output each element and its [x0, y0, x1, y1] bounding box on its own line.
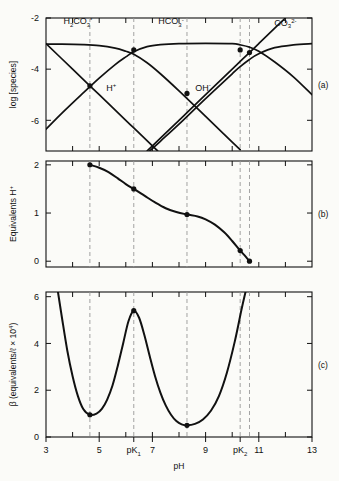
panel-label-b: (b)	[318, 209, 329, 219]
y-ticklabel: 2	[34, 160, 39, 170]
panel-c-y-axis-label: β (equivalents/ℓ × 104)	[8, 323, 18, 407]
curve-h	[46, 44, 158, 151]
panel-c-frame	[46, 292, 312, 437]
data-point-marker	[247, 259, 252, 264]
figure-container: -2-4-6(a)log [species]H2CO3*HCO3-CO32-H+…	[0, 0, 339, 481]
panel-b-y-ticks: 012	[34, 160, 312, 266]
data-point-marker	[131, 186, 136, 191]
data-point-marker	[184, 423, 189, 428]
panel-c-x-ticks	[73, 292, 286, 437]
x-axis-label: pH	[174, 461, 185, 471]
y-ticklabel: -2	[31, 13, 39, 23]
panel-b-curves	[90, 165, 250, 261]
x-ticklabel: 11	[254, 445, 263, 455]
x-ticklabel: 13	[307, 445, 317, 455]
data-point-marker	[238, 248, 243, 253]
y-ticklabel: 0	[34, 256, 39, 266]
data-point-marker	[184, 91, 189, 96]
y-ticklabel: -6	[31, 116, 39, 126]
curve-panel-b	[90, 165, 250, 261]
panel-label-a: (a)	[318, 80, 329, 90]
panel-a-x-ticks	[73, 18, 286, 151]
curve-co32	[150, 44, 312, 151]
ion-label-oh-minus: OH-	[195, 82, 211, 93]
panel-b-dashed-lines	[90, 161, 250, 267]
x-ticklabel: 5	[97, 445, 102, 455]
panel-a-ion-labels: H+OH-	[106, 82, 211, 93]
panel-c-markers	[87, 308, 189, 428]
curve-panel-c	[58, 292, 246, 425]
panel-a-y-axis-label: log [species]	[8, 61, 18, 108]
data-point-marker	[87, 412, 92, 417]
data-point-marker	[238, 47, 243, 52]
data-point-marker	[87, 83, 92, 88]
y-ticklabel: 1	[34, 208, 39, 218]
panel-b-x-ticks	[73, 161, 286, 267]
panel-b-markers	[87, 162, 252, 264]
y-ticklabel: 6	[34, 292, 39, 302]
y-ticklabel: 2	[34, 385, 39, 395]
curve-hco3	[46, 43, 312, 129]
x-ticklabel: pK1	[127, 445, 142, 457]
x-axis: 35pK179pK21113pH	[43, 437, 317, 471]
data-point-marker	[184, 212, 189, 217]
y-ticklabel: 0	[34, 432, 39, 442]
species-label-co3: CO32-	[274, 18, 296, 30]
panel-a: -2-4-6(a)log [species]H2CO3*HCO3-CO32-H+…	[8, 13, 329, 151]
panel-c-dashed-lines	[90, 292, 250, 437]
y-ticklabel: 4	[34, 339, 39, 349]
data-point-marker	[131, 308, 136, 313]
x-ticklabel: 9	[203, 445, 208, 455]
curve-h2co3	[46, 44, 240, 150]
panel-b-frame	[46, 161, 312, 267]
panel-c-y-ticks: 0246	[34, 292, 312, 442]
data-point-marker	[247, 50, 252, 55]
panel-b-y-axis-label: Equivalents H+	[8, 186, 18, 242]
y-ticklabel: -4	[31, 64, 39, 74]
panel-a-curves	[46, 18, 312, 151]
data-point-marker	[131, 47, 136, 52]
panel-b: 012(b)Equivalents H+	[8, 160, 329, 267]
data-point-marker	[87, 162, 92, 167]
panel-c: 0246(c)β (equivalents/ℓ × 104)	[8, 292, 328, 442]
x-ticklabel: 3	[43, 445, 48, 455]
panel-label-c: (c)	[318, 360, 328, 370]
x-ticklabel: 7	[150, 445, 155, 455]
curve-oh	[147, 18, 285, 151]
ion-label-h-plus: H+	[106, 82, 117, 93]
x-ticklabel: pK2	[233, 445, 248, 457]
panel-a-frame	[46, 18, 312, 151]
panel-c-curves	[58, 292, 246, 425]
carbonate-system-figure: -2-4-6(a)log [species]H2CO3*HCO3-CO32-H+…	[0, 0, 339, 481]
